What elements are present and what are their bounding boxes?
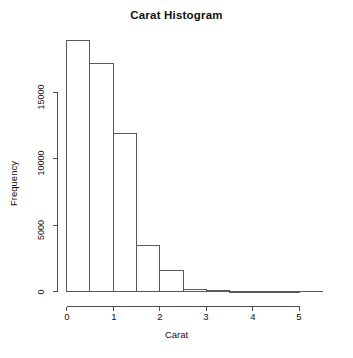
- chart-canvas: Carat Histogram Frequency Carat 0 5000 1…: [0, 0, 353, 358]
- histogram-bar: [113, 134, 136, 292]
- histogram-bar: [160, 271, 183, 292]
- plot-svg: [0, 0, 353, 358]
- histogram-bar: [67, 41, 90, 292]
- x-axis: [67, 307, 300, 312]
- histogram-bar: [90, 63, 113, 291]
- histogram-bars: [67, 41, 323, 292]
- histogram-bar: [136, 246, 159, 292]
- y-axis: [53, 92, 58, 292]
